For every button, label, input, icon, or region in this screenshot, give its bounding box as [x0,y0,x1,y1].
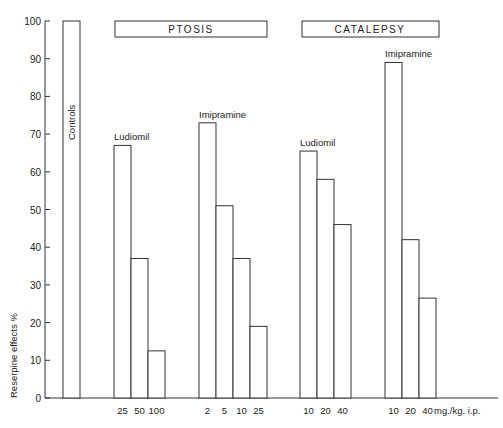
dose-label: 10 [236,405,247,416]
dose-label: 5 [222,405,227,416]
dose-label: 2 [205,405,210,416]
bar [419,298,436,398]
group-label: Ludiomil [114,131,149,142]
bar [114,145,131,398]
y-ticks: 0102030405060708090100 [24,16,50,404]
group-label: Ludiomil [300,137,335,148]
bar [199,123,216,398]
bar [334,225,351,398]
y-axis-label: Reserpine effects % [8,313,19,398]
bar [402,240,419,398]
y-tick-label: 90 [30,54,42,65]
bar [216,206,233,398]
y-tick-label: 80 [30,91,42,102]
ptosis-header: PTOSIS [168,24,214,35]
bar [233,259,250,398]
y-tick-label: 20 [30,318,42,329]
bar [250,326,267,398]
bar [131,259,148,398]
units-label: mg./kg. i.p. [434,405,480,416]
dose-label: 50 [134,405,145,416]
dose-label: 40 [337,405,348,416]
y-tick-label: 0 [35,393,41,404]
bar [385,62,402,398]
chart: 0102030405060708090100 Reserpine effects… [0,0,503,428]
bar [317,179,334,398]
bars: 2550100Ludiomil251025Imipramine102040Lud… [114,48,436,416]
controls-label: Controls [66,104,77,140]
y-tick-label: 70 [30,129,42,140]
y-tick-label: 100 [24,16,41,27]
dose-label: 10 [388,405,399,416]
y-tick-label: 50 [30,205,42,216]
dose-label: 20 [320,405,331,416]
y-tick-label: 10 [30,355,42,366]
dose-label: 10 [303,405,314,416]
dose-label: 25 [253,405,264,416]
group-label: Imipramine [385,48,432,59]
catalepsy-header: CATALEPSY [335,24,406,35]
y-tick-label: 60 [30,167,42,178]
dose-label: 25 [117,405,128,416]
dose-label: 100 [149,405,165,416]
bar [148,351,165,398]
y-tick-label: 30 [30,280,42,291]
y-tick-label: 40 [30,242,42,253]
bar [300,151,317,398]
dose-label: 40 [422,405,433,416]
group-label: Imipramine [199,109,246,120]
controls-bar [63,21,80,398]
dose-label: 20 [405,405,416,416]
